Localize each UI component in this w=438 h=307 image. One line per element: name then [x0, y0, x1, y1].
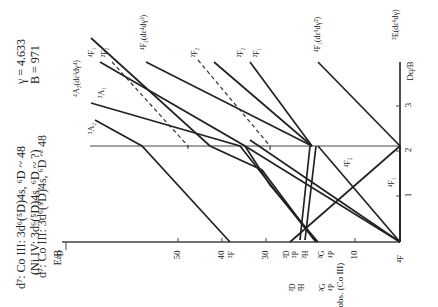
- energy-level-diagram: d⁷: Co III: 3d⁶(⁵D)4s, ⁶D ~ 48: [0, 0, 438, 307]
- state-lines: [91, 38, 400, 242]
- svg-text:d⁷: Co III: 3d⁶(⁵D)4s, ⁶D ~ 48: d⁷: Co III: 3d⁶(⁵D)4s, ⁶D ~ 48: [35, 135, 49, 278]
- dashed-lines: [112, 60, 270, 152]
